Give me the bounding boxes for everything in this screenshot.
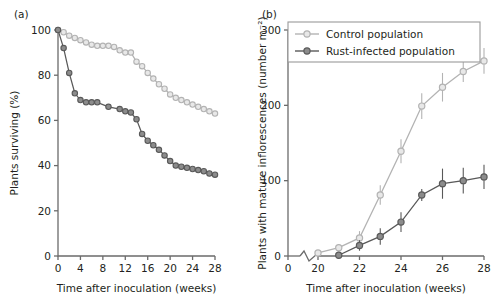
data-point: [95, 43, 100, 48]
data-point: [139, 131, 144, 136]
data-point: [117, 106, 122, 111]
data-point: [61, 30, 66, 35]
data-point: [439, 84, 445, 90]
data-point: [151, 143, 156, 148]
data-point: [106, 43, 111, 48]
data-point: [67, 33, 72, 38]
x-tick-label: 26: [436, 262, 450, 274]
data-point: [95, 100, 100, 105]
x-tick-label: 24: [394, 262, 408, 274]
legend-marker: [304, 31, 310, 37]
data-point: [179, 97, 184, 102]
data-point: [195, 104, 200, 109]
y-tick-label: 0: [44, 250, 51, 262]
data-point: [72, 35, 77, 40]
figure-container: (a) 0204060801000481216202428 Time after…: [0, 0, 500, 308]
x-tick-label: 0: [55, 262, 62, 274]
data-point: [398, 148, 404, 154]
data-point: [184, 100, 189, 105]
data-point: [72, 91, 77, 96]
data-point: [111, 44, 116, 49]
data-point: [128, 110, 133, 115]
data-point: [173, 95, 178, 100]
panel-b-ylabel: Plants with mature inflorescences (numbe…: [256, 16, 268, 269]
data-point: [61, 45, 66, 50]
data-point: [201, 169, 206, 174]
y-tick-label: 40: [38, 159, 51, 171]
data-point: [336, 245, 342, 251]
x-tick-label: 16: [141, 262, 155, 274]
panel-a-chart: (a) 0204060801000481216202428 Time after…: [0, 0, 250, 308]
data-point: [212, 111, 217, 116]
data-point: [377, 233, 383, 239]
data-point: [89, 42, 94, 47]
x-tick-label: 8: [100, 262, 107, 274]
data-point: [184, 165, 189, 170]
data-point: [460, 178, 466, 184]
legend-marker: [304, 48, 310, 54]
x-tick-label: 22: [353, 262, 366, 274]
data-point: [201, 106, 206, 111]
data-point: [439, 181, 445, 187]
data-point: [78, 97, 83, 102]
legend-label: Rust-infected population: [326, 45, 455, 57]
data-point: [207, 171, 212, 176]
data-point: [151, 76, 156, 81]
data-point: [179, 164, 184, 169]
data-point: [315, 250, 321, 256]
x-tick-label: 28: [208, 262, 221, 274]
data-point: [481, 58, 487, 64]
data-point: [460, 68, 466, 74]
data-point: [145, 138, 150, 143]
data-point: [356, 235, 362, 241]
data-point: [195, 167, 200, 172]
panel-b: (b) 010020030002022242628 Control popula…: [250, 0, 500, 308]
data-point: [100, 43, 105, 48]
data-point: [78, 37, 83, 42]
x-tick-label: 28: [477, 262, 490, 274]
x-tick-label: 20: [311, 262, 324, 274]
data-point: [89, 100, 94, 105]
panel-b-xlabel: Time after inoculation (weeks): [305, 282, 466, 294]
x-tick-label: 4: [77, 262, 84, 274]
panel-b-chart: (b) 010020030002022242628 Control popula…: [250, 0, 500, 308]
panel-a-label: (a): [14, 8, 29, 20]
y-tick-label: 80: [38, 69, 51, 81]
legend-label: Control population: [326, 28, 423, 40]
data-point: [156, 82, 161, 87]
data-point: [123, 109, 128, 114]
data-point: [377, 192, 383, 198]
y-tick-label: 100: [31, 24, 51, 36]
data-point: [419, 192, 425, 198]
x-tick-label: 0: [285, 262, 292, 274]
y-tick-label: 0: [274, 250, 281, 262]
data-point: [83, 100, 88, 105]
data-point: [167, 92, 172, 97]
data-point: [117, 48, 122, 53]
data-point: [190, 166, 195, 171]
data-point: [145, 70, 150, 75]
data-point: [83, 40, 88, 45]
data-point: [156, 147, 161, 152]
data-point: [336, 252, 342, 258]
x-tick-label: 12: [119, 262, 132, 274]
data-point: [356, 242, 362, 248]
data-point: [212, 172, 217, 177]
data-point: [481, 174, 487, 180]
panel-a-xlabel: Time after inoculation (weeks): [56, 282, 217, 294]
data-point: [106, 104, 111, 109]
panel-a: (a) 0204060801000481216202428 Time after…: [0, 0, 250, 308]
data-point: [67, 70, 72, 75]
panel-a-ylabel: Plants surviving (%): [8, 91, 20, 196]
data-point: [139, 63, 144, 68]
data-point: [123, 50, 128, 55]
data-point: [55, 27, 60, 32]
data-point: [167, 158, 172, 163]
data-point: [162, 86, 167, 91]
data-point: [398, 219, 404, 225]
data-point: [207, 109, 212, 114]
data-point: [419, 103, 425, 109]
data-point: [162, 153, 167, 158]
data-point: [134, 117, 139, 122]
data-point: [173, 163, 178, 168]
